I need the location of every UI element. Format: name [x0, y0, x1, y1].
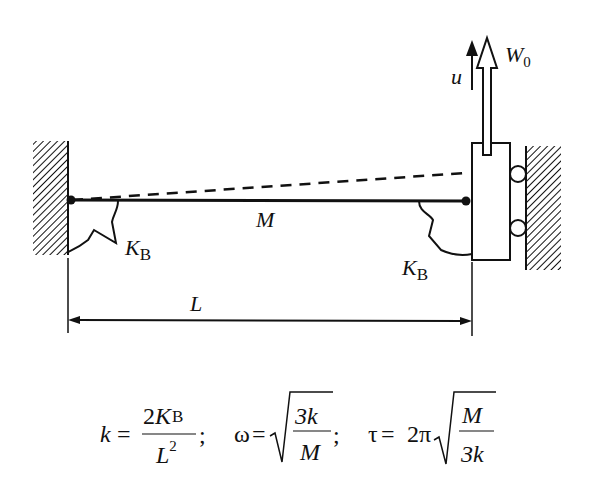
svg-text:k: k: [100, 421, 111, 447]
right-spring-icon: [419, 201, 472, 255]
svg-text:3k: 3k: [294, 403, 318, 429]
svg-text:;: ;: [199, 422, 206, 448]
svg-text:ω: ω: [234, 421, 250, 447]
svg-text:2KB: 2KB: [143, 403, 183, 429]
load-arrow-icon: [477, 38, 497, 155]
roller-bottom: [510, 220, 526, 236]
svg-text:M: M: [461, 402, 484, 428]
beam: [70, 200, 466, 201]
formula-tau: τ = 2π M 3k: [368, 392, 496, 467]
mass-label: M: [255, 207, 276, 232]
left-wall: [33, 141, 68, 255]
length-label: L: [189, 291, 202, 316]
right-spring-label: KB: [401, 255, 428, 284]
right-pin: [462, 197, 471, 206]
svg-text:;: ;: [333, 422, 340, 448]
diagram-canvas: u W0 M KB KB L k = 2KB L2 ; ω = 3k M ; τ: [0, 0, 593, 493]
right-wall: [526, 146, 561, 270]
svg-text:2π: 2π: [407, 421, 431, 447]
left-pin: [67, 196, 76, 205]
left-spring-icon: [68, 201, 118, 252]
roller-top: [510, 166, 526, 182]
svg-text:=: =: [117, 421, 131, 447]
svg-text:τ: τ: [368, 421, 378, 447]
svg-text:=: =: [252, 421, 266, 447]
displacement-arrow-icon: [466, 40, 478, 90]
left-spring-label: KB: [124, 235, 151, 264]
load-label: W0: [505, 42, 531, 70]
svg-text:L2: L2: [155, 438, 177, 468]
sliding-block: [472, 143, 510, 260]
svg-text:=: =: [381, 421, 395, 447]
displacement-label: u: [451, 64, 462, 89]
svg-text:M: M: [299, 439, 322, 465]
deflected-shape-line: [72, 173, 466, 200]
formula-k: k = 2KB L2 ;: [100, 403, 206, 468]
svg-text:3k: 3k: [460, 441, 484, 467]
formula-omega: ω = 3k M ;: [234, 392, 340, 465]
